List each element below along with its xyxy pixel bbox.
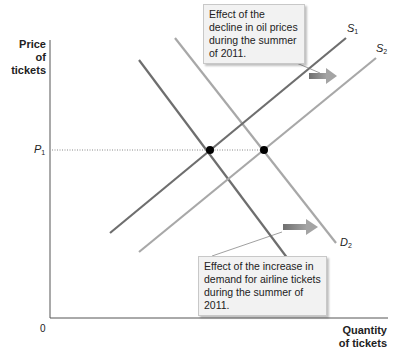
demand-callout-leader bbox=[212, 232, 282, 256]
supply-s1-label: S1 bbox=[347, 22, 358, 35]
supply-s2-label: S2 bbox=[376, 42, 387, 55]
x-axis-label-line2: of tickets bbox=[339, 337, 387, 350]
supply-curve-s2 bbox=[139, 58, 376, 252]
origin-label: 0 bbox=[40, 323, 46, 334]
x-axis-label: Quantity of tickets bbox=[339, 324, 387, 350]
y-axis-label: Price of tickets bbox=[8, 38, 46, 77]
demand-d2-label: D2 bbox=[340, 236, 352, 249]
demand-shift-arrow-icon bbox=[283, 219, 318, 235]
x-axis-label-line1: Quantity bbox=[339, 324, 387, 337]
equilibrium-point-initial bbox=[206, 146, 214, 154]
supply-shift-callout: Effect of the decline in oil prices duri… bbox=[203, 4, 305, 64]
y-axis-label-line2: tickets bbox=[8, 64, 46, 77]
y-axis-label-line1: Price of bbox=[8, 38, 46, 64]
demand-shift-callout: Effect of the increase in demand for air… bbox=[198, 256, 327, 316]
equilibrium-point-new bbox=[260, 146, 268, 154]
price-p1-label: P1 bbox=[34, 143, 45, 156]
